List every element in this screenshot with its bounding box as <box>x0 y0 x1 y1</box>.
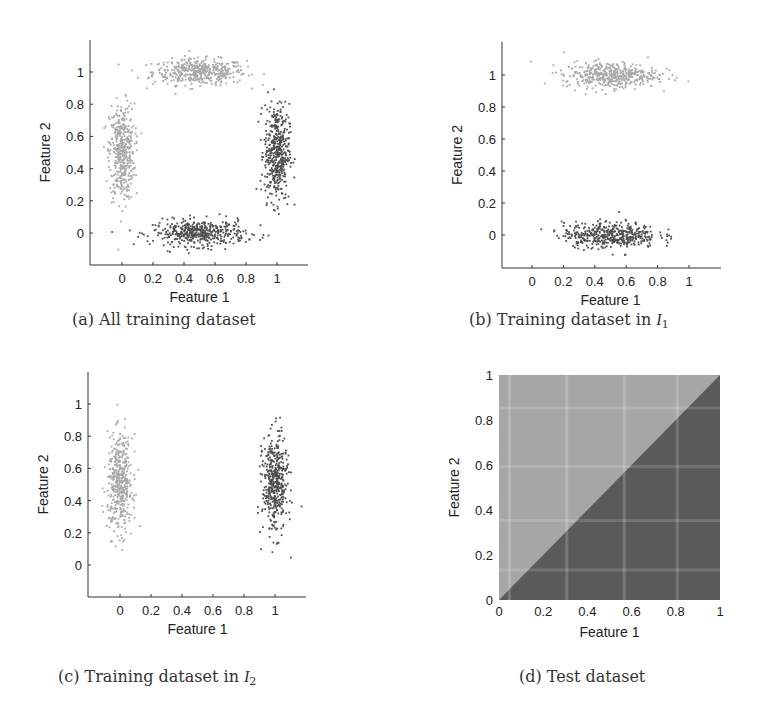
y-tick-label: 0.8 <box>475 413 493 428</box>
y-axis-label: Feature 2 <box>449 125 465 185</box>
chart-panel-c: 00.20.40.60.8100.20.40.60.81Feature 1Fea… <box>35 372 306 637</box>
x-tick-label: 0.8 <box>237 271 255 286</box>
scatter-points <box>101 404 302 559</box>
x-tick-label: 0.4 <box>586 274 604 289</box>
y-tick-label: 0.8 <box>64 429 82 444</box>
y-tick-label: 1 <box>75 397 82 412</box>
y-tick-label: 0.6 <box>64 461 82 476</box>
x-axis-label: Feature 1 <box>581 292 641 308</box>
x-tick-label: 0.6 <box>206 271 224 286</box>
x-tick-label: 1 <box>271 603 278 618</box>
x-tick-label: 0.2 <box>534 604 552 619</box>
x-tick-label: 1 <box>685 274 692 289</box>
test-heatmap <box>499 375 720 600</box>
y-axis-label: Feature 2 <box>37 122 53 182</box>
x-tick-label: 0.2 <box>142 603 160 618</box>
y-tick-label: 0 <box>75 558 82 573</box>
x-axis-label: Feature 1 <box>168 621 228 637</box>
y-tick-label: 0.6 <box>66 129 84 144</box>
caption-b-text: (b) Training dataset in <box>469 310 656 329</box>
chart-panel-b: 00.20.40.60.8100.20.40.60.81Feature 1Fea… <box>449 42 721 308</box>
x-tick-label: 0 <box>116 603 123 618</box>
y-tick-label: 0.4 <box>64 494 82 509</box>
caption-a: (a) All training dataset <box>72 310 256 329</box>
caption-a-text: (a) All training dataset <box>72 310 256 329</box>
x-tick-label: 1 <box>716 604 723 619</box>
y-tick-label: 0.6 <box>478 132 496 147</box>
x-tick-label: 0.4 <box>173 603 191 618</box>
caption-c: (c) Training dataset in I2 <box>58 667 256 688</box>
x-tick-label: 1 <box>273 271 280 286</box>
caption-d-text: (d) Test dataset <box>519 667 645 686</box>
chart-panel-a: 00.20.40.60.8100.20.40.60.81Feature 1Fea… <box>37 40 308 305</box>
x-tick-label: 0.8 <box>235 603 253 618</box>
x-tick-label: 0.8 <box>649 274 667 289</box>
tick-labels: 00.20.40.60.8100.20.40.60.81 <box>64 397 279 618</box>
x-axis-label: Feature 1 <box>580 624 640 640</box>
caption-b-subscript: 1 <box>662 318 669 331</box>
y-tick-label: 1 <box>77 65 84 80</box>
y-tick-label: 0.2 <box>475 548 493 563</box>
y-tick-label: 1 <box>489 68 496 83</box>
y-tick-label: 0.2 <box>478 196 496 211</box>
y-tick-label: 0.4 <box>66 162 84 177</box>
x-tick-label: 0.8 <box>667 604 685 619</box>
y-tick-label: 0.2 <box>66 194 84 209</box>
x-tick-label: 0 <box>118 271 125 286</box>
x-tick-label: 0.6 <box>623 604 641 619</box>
figure-canvas: 00.20.40.60.8100.20.40.60.81Feature 1Fea… <box>0 0 769 721</box>
caption-b: (b) Training dataset in I1 <box>469 310 669 331</box>
x-tick-label: 0.4 <box>175 271 193 286</box>
scatter-points <box>530 51 689 256</box>
x-tick-label: 0 <box>495 604 502 619</box>
y-tick-label: 0.4 <box>475 503 493 518</box>
x-tick-label: 0.4 <box>578 604 596 619</box>
caption-c-subscript: 2 <box>249 675 256 688</box>
caption-c-text: (c) Training dataset in <box>58 667 244 686</box>
x-tick-label: 0.6 <box>204 603 222 618</box>
y-tick-label: 0.8 <box>478 100 496 115</box>
tick-labels: 00.20.40.60.8100.20.40.60.81 <box>66 65 281 286</box>
x-tick-label: 0 <box>528 274 535 289</box>
y-axis-label: Feature 2 <box>35 454 51 514</box>
x-axis-label: Feature 1 <box>170 289 230 305</box>
y-tick-label: 0.2 <box>64 526 82 541</box>
scatter-points <box>103 50 296 254</box>
y-axis-label: Feature 2 <box>446 457 462 517</box>
x-tick-label: 0.2 <box>554 274 572 289</box>
caption-d: (d) Test dataset <box>519 667 645 686</box>
y-tick-label: 0.8 <box>66 97 84 112</box>
x-tick-label: 0.2 <box>144 271 162 286</box>
y-tick-label: 0 <box>486 593 493 608</box>
x-tick-label: 0.6 <box>617 274 635 289</box>
y-tick-label: 0 <box>77 226 84 241</box>
y-tick-label: 1 <box>486 368 493 383</box>
y-tick-label: 0 <box>489 228 496 243</box>
y-tick-label: 0.4 <box>478 164 496 179</box>
y-tick-label: 0.6 <box>475 458 493 473</box>
tick-labels: 00.20.40.60.8100.20.40.60.81 <box>478 68 693 289</box>
chart-panel-d: 00.20.40.60.8100.20.40.60.81Feature 1Fea… <box>446 368 724 640</box>
